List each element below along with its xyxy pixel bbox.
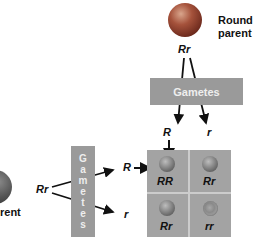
genotype-label: RR	[157, 175, 173, 187]
top-parent-label-line2: parent	[218, 27, 253, 40]
left-parent-label: rent	[0, 206, 21, 218]
wrinkled-pea-icon	[203, 201, 218, 216]
top-parent-pea	[168, 3, 202, 37]
genotype-label: Rr	[160, 220, 172, 232]
round-pea-icon	[159, 200, 175, 216]
left-parent-genotype: Rr	[36, 183, 48, 195]
left-gametes-letter: s	[80, 219, 86, 230]
top-gametes-bar: Gametes	[150, 78, 243, 105]
left-gametes-letter: e	[80, 186, 86, 197]
left-allele-R: R	[123, 161, 131, 173]
top-allele-R: R	[163, 126, 171, 138]
round-pea-icon	[159, 156, 175, 172]
left-gametes-letter: e	[80, 208, 86, 219]
left-gametes-letter: m	[79, 175, 88, 186]
genotype-label: rr	[205, 220, 214, 232]
top-gametes-label: Gametes	[173, 86, 219, 98]
top-parent-label-line1: Round	[218, 14, 253, 27]
left-gametes-letter: t	[81, 197, 84, 208]
top-parent-genotype: Rr	[178, 43, 190, 55]
genotype-label: Rr	[203, 175, 215, 187]
punnett-cell-Rr-top: Rr	[190, 150, 231, 192]
punnett-cell-RR: RR	[147, 150, 188, 192]
punnett-square: RR Rr Rr rr	[147, 150, 231, 237]
top-allele-r: r	[207, 126, 211, 138]
top-parent-label: Round parent	[218, 14, 253, 40]
left-allele-r: r	[124, 208, 128, 220]
round-pea-icon	[202, 156, 218, 172]
punnett-cell-Rr-bottom: Rr	[147, 194, 188, 237]
left-gametes-letter: a	[80, 164, 86, 175]
left-gametes-bar: G a m e t e s	[71, 146, 95, 237]
punnett-cell-rr: rr	[190, 194, 231, 237]
left-gametes-letter: G	[79, 153, 87, 164]
